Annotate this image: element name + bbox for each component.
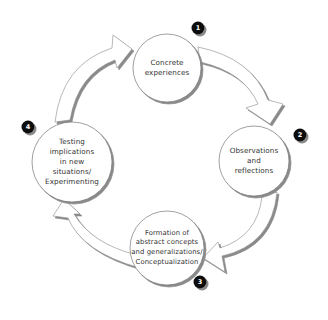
node-label-concrete-experiences: Concrete experiences bbox=[133, 34, 201, 102]
arrow-1-to-2 bbox=[198, 47, 283, 124]
step-number-4: 4 bbox=[22, 121, 35, 134]
step-number-1: 1 bbox=[192, 22, 205, 35]
node-label-observations-reflections: Observations and reflections bbox=[219, 126, 289, 196]
arrow-4-to-1 bbox=[55, 35, 132, 122]
step-number-3: 3 bbox=[194, 276, 207, 289]
arrow-3-to-4 bbox=[53, 199, 140, 268]
node-label-experimenting: Testing implications in new situations/ … bbox=[32, 122, 112, 202]
node-label-conceptualization: Formation of abstract concepts and gener… bbox=[128, 211, 206, 285]
arrow-2-to-3 bbox=[203, 192, 277, 272]
step-number-2: 2 bbox=[294, 129, 307, 142]
